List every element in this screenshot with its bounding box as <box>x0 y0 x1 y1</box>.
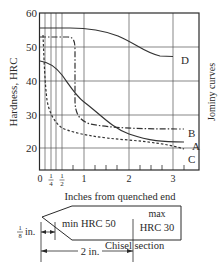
chisel-section-label: Chisel section <box>105 240 165 251</box>
y-tick-60: 60 <box>26 7 38 19</box>
dim-eighth-inch: 1 8 in. <box>17 224 35 239</box>
curves <box>40 28 184 149</box>
curve-label-a: A <box>192 140 200 152</box>
x-tick-0: 0 <box>38 173 43 184</box>
y-axis-labels: 60 50 40 30 20 <box>26 7 38 154</box>
svg-text:8: 8 <box>18 232 21 239</box>
curve-label-c: C <box>188 153 195 165</box>
right-axis-title: Jominy curves <box>206 63 217 121</box>
curve-c <box>43 35 184 149</box>
x-axis-title: Inches from quenched end <box>64 191 176 202</box>
y-tick-30: 30 <box>26 109 38 121</box>
min-hardness-label: min HRC 50 <box>62 218 116 229</box>
svg-text:2: 2 <box>60 180 64 188</box>
max-label-line1: max <box>148 208 165 219</box>
y-axis-title: Hardness, HRC <box>7 57 19 126</box>
y-tick-40: 40 <box>26 75 38 87</box>
curve-label-d: D <box>181 54 189 66</box>
curve-d <box>40 28 173 57</box>
svg-text:in.: in. <box>25 226 35 237</box>
x-tick-1: 1 <box>82 173 87 184</box>
svg-text:4: 4 <box>49 180 53 188</box>
y-tick-20: 20 <box>26 142 38 154</box>
max-label-line2: HRC 30 <box>140 222 175 233</box>
x-tick-quarter: 1 4 <box>49 172 54 188</box>
svg-text:1: 1 <box>49 172 53 180</box>
x-minor-ticks <box>73 165 184 170</box>
x-axis-labels: 0 1 4 1 2 1 2 3 <box>38 172 176 188</box>
dim-two-inch: 2 in. <box>81 246 100 257</box>
svg-text:1: 1 <box>18 224 21 231</box>
chisel-diagram: min HRC 50 max HRC 30 Chisel section 1 8… <box>17 205 181 266</box>
x-tick-3: 3 <box>171 173 176 184</box>
jominy-chart: 60 50 40 30 20 0 1 4 1 2 1 2 3 Inches fr… <box>0 0 224 266</box>
svg-text:1: 1 <box>60 172 64 180</box>
curve-a <box>40 61 184 142</box>
curve-label-b: B <box>188 127 195 139</box>
y-tick-50: 50 <box>26 41 38 53</box>
x-tick-half: 1 2 <box>60 172 65 188</box>
x-tick-2: 2 <box>127 173 132 184</box>
